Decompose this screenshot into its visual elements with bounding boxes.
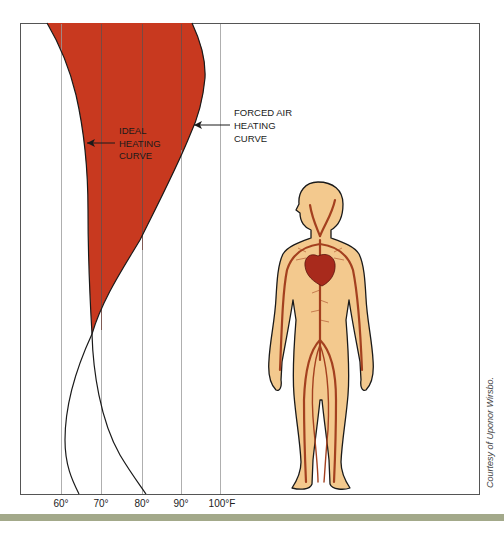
heating-curve-diagram: IDEAL HEATING CURVE FORCED AIR HEATING C… [0, 0, 504, 534]
tick-80: 80° [134, 498, 149, 509]
tick-70: 70° [93, 498, 108, 509]
svg-text:FORCED AIR: FORCED AIR [234, 107, 292, 118]
tick-100: 100°F [209, 498, 236, 509]
svg-text:HEATING: HEATING [119, 138, 161, 149]
tick-90: 90° [173, 498, 188, 509]
svg-text:CURVE: CURVE [234, 133, 267, 144]
svg-text:HEATING: HEATING [234, 120, 276, 131]
svg-text:CURVE: CURVE [119, 150, 152, 161]
image-credit: Courtesy of Uponor Wirsbo. [485, 377, 495, 488]
bottom-divider-bar [0, 514, 504, 521]
tick-60: 60° [53, 498, 68, 509]
svg-text:IDEAL: IDEAL [119, 125, 146, 136]
x-axis-ticks: 60° 70° 80° 90° 100°F [53, 498, 235, 509]
